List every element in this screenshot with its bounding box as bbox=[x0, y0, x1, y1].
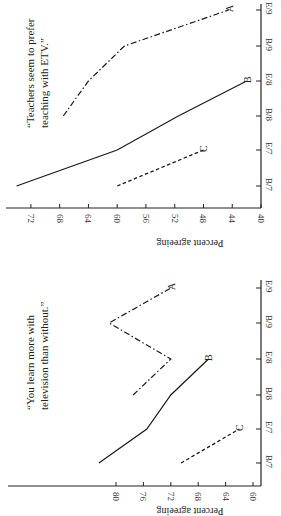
series-label: C bbox=[198, 145, 209, 152]
value-tick-label: 80 bbox=[111, 492, 121, 502]
series-label: B bbox=[203, 354, 214, 361]
annotation-line-1: “Teachers seem to prefer bbox=[24, 18, 36, 128]
value-tick-label: 60 bbox=[112, 214, 122, 224]
series-a-line bbox=[63, 10, 228, 116]
chart-teachers-prefer-etv: 404448525660646872 B/7E/7B/8E/8B/9E/9 AB… bbox=[6, 2, 274, 249]
category-tick-label: E/7 bbox=[264, 142, 274, 155]
category-tick-label: B/7 bbox=[264, 455, 274, 469]
series-b-line bbox=[17, 81, 247, 186]
value-ticks: 606468727680 bbox=[111, 482, 258, 502]
y-axis-label: Percent agreeing bbox=[157, 506, 224, 516]
series-c-line bbox=[181, 429, 239, 463]
category-tick-label: B/8 bbox=[264, 108, 274, 122]
value-tick-label: 72 bbox=[26, 214, 36, 223]
value-tick-label: 68 bbox=[55, 214, 65, 224]
value-tick-label: 52 bbox=[170, 214, 180, 223]
series-lines: ABC bbox=[17, 4, 253, 186]
y-axis-label: Percent agreeing bbox=[157, 238, 224, 249]
category-tick-label: E/9 bbox=[264, 280, 274, 293]
value-tick-label: 64 bbox=[221, 492, 231, 502]
series-label: A bbox=[166, 282, 177, 290]
series-label: C bbox=[234, 424, 245, 431]
series-a-line bbox=[109, 288, 171, 395]
value-tick-label: 76 bbox=[138, 492, 148, 502]
value-ticks: 404448525660646872 bbox=[26, 204, 266, 224]
value-tick-label: 64 bbox=[83, 214, 93, 224]
category-tick-label: E/7 bbox=[264, 421, 274, 434]
annotation-line-2: teaching with ETV.” bbox=[38, 38, 50, 128]
chart-learn-more-with-tv: 606468727680 B/7E/7B/8E/8B/9E/9 ABC Perc… bbox=[8, 280, 274, 516]
category-tick-label: B/9 bbox=[264, 315, 274, 329]
value-tick-label: 68 bbox=[193, 492, 203, 502]
value-tick-label: 72 bbox=[166, 492, 176, 501]
series-label: B bbox=[242, 76, 253, 83]
category-tick-label: E/9 bbox=[264, 2, 274, 15]
category-tick-label: B/9 bbox=[264, 38, 274, 52]
annotation-line-2: television than without.” bbox=[38, 301, 50, 410]
value-tick-label: 40 bbox=[256, 214, 266, 224]
series-c-line bbox=[117, 150, 203, 186]
category-ticks: B/7E/7B/8E/8B/9E/9 bbox=[256, 280, 274, 469]
value-tick-label: 44 bbox=[227, 214, 237, 224]
category-ticks: B/7E/7B/8E/8B/9E/9 bbox=[256, 2, 274, 192]
value-tick-label: 56 bbox=[141, 214, 151, 224]
series-label: A bbox=[224, 4, 235, 12]
figure: 404448525660646872 B/7E/7B/8E/8B/9E/9 AB… bbox=[0, 0, 281, 516]
value-tick-label: 60 bbox=[248, 492, 258, 502]
annotation-line-1: “You learn more with bbox=[24, 314, 36, 410]
category-tick-label: B/8 bbox=[264, 387, 274, 401]
value-tick-label: 48 bbox=[198, 214, 208, 224]
category-tick-label: E/8 bbox=[264, 73, 274, 86]
category-tick-label: E/8 bbox=[264, 351, 274, 364]
category-tick-label: B/7 bbox=[264, 178, 274, 192]
series-lines: ABC bbox=[99, 282, 245, 463]
